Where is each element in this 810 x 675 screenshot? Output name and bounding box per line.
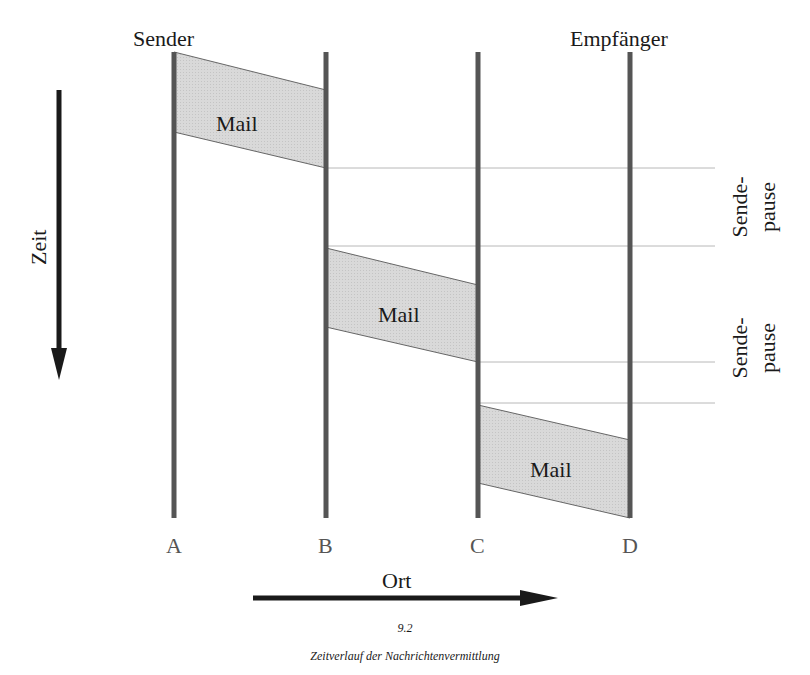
node-label-b: B [318, 533, 333, 558]
mail-label-1: Mail [216, 111, 258, 136]
mail-block-a-b [174, 52, 326, 168]
place-axis-label: Ort [382, 568, 411, 593]
pause-label-1-line2: pause [755, 182, 780, 232]
pause-label-1: Sende- pause [727, 176, 780, 237]
time-axis-label: Zeit [26, 230, 51, 265]
mail-label-2: Mail [378, 302, 420, 327]
figure-number: 9.2 [398, 621, 413, 635]
figure-title: Zeitverlauf der Nachrichtenvermittlung [310, 649, 499, 663]
pause-label-2-line1: Sende- [727, 317, 752, 378]
sender-label: Sender [133, 26, 195, 51]
pause-label-1-line1: Sende- [727, 176, 752, 237]
node-label-c: C [470, 533, 485, 558]
pause-label-2: Sende- pause [727, 317, 780, 378]
receiver-label: Empfänger [570, 26, 668, 51]
diagram-canvas: Sender Empfänger Mail Mail Mail A B C D … [0, 0, 810, 675]
pause-label-2-line2: pause [755, 323, 780, 373]
node-label-a: A [166, 533, 182, 558]
node-label-d: D [622, 533, 638, 558]
mail-label-3: Mail [530, 457, 572, 482]
time-axis-arrow [51, 90, 67, 380]
